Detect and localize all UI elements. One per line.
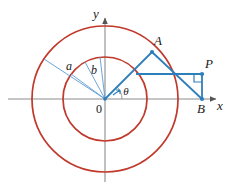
point-o-dot <box>103 97 107 101</box>
geometry-figure: y x 0 a b A P B θ <box>0 0 229 189</box>
point-a-label: A <box>153 33 162 48</box>
vertex-dots-group <box>103 50 204 101</box>
point-p-label: P <box>204 56 213 71</box>
point-b-label: B <box>197 101 205 116</box>
origin-label: 0 <box>96 102 102 116</box>
point-a-dot <box>150 50 154 54</box>
radius-b-ray-3 <box>100 57 105 99</box>
radius-b-ray-1 <box>71 74 105 99</box>
figure-canvas: y x 0 a b A P B θ <box>0 0 229 189</box>
axes-group <box>8 18 216 182</box>
y-axis-label: y <box>91 6 99 21</box>
x-axis-label: x <box>216 98 223 113</box>
theta-label: θ <box>123 85 129 97</box>
radius-a-label: a <box>66 59 72 73</box>
point-p-dot <box>200 72 204 76</box>
radius-b-label: b <box>91 63 97 77</box>
